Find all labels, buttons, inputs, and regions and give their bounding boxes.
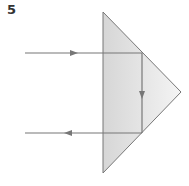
prism-diagram bbox=[0, 0, 189, 186]
arrow-right-icon bbox=[70, 50, 78, 56]
arrow-left-icon bbox=[64, 130, 72, 136]
